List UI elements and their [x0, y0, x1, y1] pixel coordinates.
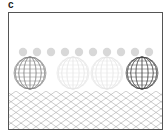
- wireframe-sphere: [14, 57, 46, 89]
- panel-label: c: [8, 0, 14, 10]
- wireframe-sphere: [57, 57, 89, 89]
- wireframe-sphere: [91, 57, 123, 89]
- scene-frame: [8, 12, 163, 130]
- scene-canvas: [9, 13, 163, 130]
- wireframe-sphere: [126, 57, 158, 89]
